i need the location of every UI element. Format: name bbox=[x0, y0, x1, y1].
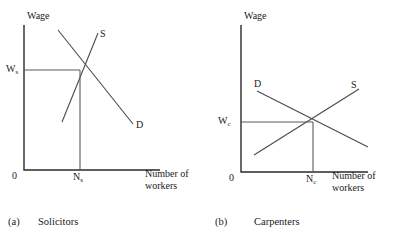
chart-b-caption-index: (b) bbox=[215, 216, 227, 228]
chart-a-demand-curve bbox=[58, 30, 133, 124]
chart-b-origin-label: 0 bbox=[229, 172, 234, 183]
chart-b-demand-curve-label: D bbox=[254, 78, 261, 89]
figure-page: Wage Ws 0 Ns S D Number of workers (a) S… bbox=[0, 0, 405, 234]
chart-a-x-axis-title-line2: workers bbox=[145, 180, 177, 191]
chart-panel-carpenters: Wage Wc 0 Nc D S Number of workers (b) C… bbox=[202, 0, 405, 234]
chart-b-wage-subscript: c bbox=[227, 120, 230, 128]
chart-b-equilibrium-wage-label: Wc bbox=[218, 115, 231, 130]
chart-a-equilibrium-quantity-label: Ns bbox=[73, 171, 83, 186]
chart-a-caption-index: (a) bbox=[8, 216, 20, 228]
chart-a-equilibrium-wage-label: Ws bbox=[6, 63, 18, 78]
chart-b-x-axis-title-line2: workers bbox=[332, 182, 364, 193]
chart-panel-solicitors: Wage Ws 0 Ns S D Number of workers (a) S… bbox=[0, 0, 203, 234]
chart-b-supply-curve-label: S bbox=[351, 79, 357, 90]
chart-a-supply-curve-label: S bbox=[100, 28, 106, 39]
chart-b-y-axis-title: Wage bbox=[244, 10, 267, 21]
chart-a-y-axis-title: Wage bbox=[27, 10, 50, 21]
chart-a-caption-label: Solicitors bbox=[38, 216, 78, 228]
chart-b-axes bbox=[241, 25, 368, 172]
chart-b-x-axis-title-line1: Number of bbox=[332, 170, 376, 181]
chart-a-origin-label: 0 bbox=[12, 170, 17, 181]
chart-b-equilibrium-quantity-label: Nc bbox=[306, 173, 316, 188]
chart-a-demand-curve-label: D bbox=[136, 119, 143, 130]
chart-a-wage-subscript: s bbox=[15, 68, 18, 76]
chart-b-caption-label: Carpenters bbox=[254, 216, 299, 228]
chart-a-x-axis-title-line1: Number of bbox=[145, 168, 189, 179]
chart-b-quantity-subscript: c bbox=[313, 178, 316, 186]
chart-a-quantity-subscript: s bbox=[80, 176, 83, 184]
